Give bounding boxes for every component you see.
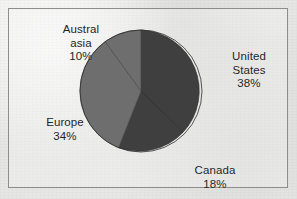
pie-label-united-states: United States 38% xyxy=(213,50,285,91)
pie-label-australasia: Austral asia 10% xyxy=(45,23,117,64)
pie-label-europe: Europe 34% xyxy=(29,116,101,143)
chart-page: Austral asia 10% United States 38% Europ… xyxy=(0,0,297,199)
pie-chart-plot-area: Austral asia 10% United States 38% Europ… xyxy=(9,9,287,187)
chart-frame-border: Austral asia 10% United States 38% Europ… xyxy=(8,8,288,188)
pie-label-canada: Canada 18% xyxy=(177,164,253,191)
